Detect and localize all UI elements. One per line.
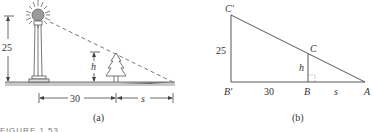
panel-a-caption: (a) (93, 112, 104, 124)
figure-caption: FIGURE 1.53 (0, 126, 59, 132)
figure-canvas: 25 h (0, 0, 374, 132)
panel-a: 25 h (2, 0, 175, 124)
vertex-c-prime: C′ (225, 3, 235, 14)
vertex-b: B (304, 86, 310, 97)
shadow-length-label: s (141, 93, 145, 104)
side-b-prime-b-label: 30 (264, 86, 274, 97)
lamp-height-label: 25 (2, 42, 12, 53)
tree-icon (106, 53, 126, 82)
lamp-bulb (32, 9, 44, 21)
vertex-b-prime: B′ (224, 86, 233, 97)
vertex-c: C (310, 43, 317, 54)
side-cb-label: h (299, 62, 304, 73)
tree-height-label: h (91, 61, 96, 72)
panel-b: C′ B′ C B A 25 h 30 s (b) (216, 3, 371, 124)
panel-b-caption: (b) (292, 112, 304, 124)
vertex-a: A (363, 86, 371, 97)
distance-label: 30 (70, 93, 80, 104)
similar-triangles (231, 15, 365, 82)
lamp-post (29, 25, 49, 82)
side-c-prime-b-prime-label: 25 (216, 45, 226, 56)
horizontal-dimensions (39, 93, 173, 103)
side-ba-label: s (334, 86, 338, 97)
